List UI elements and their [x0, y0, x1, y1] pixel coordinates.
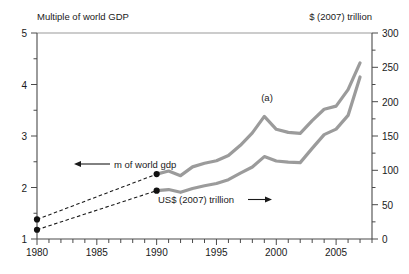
series-label-usd-trillion: US$ (2007) trillion — [158, 194, 272, 205]
right-axis-major-ticks — [372, 33, 378, 239]
x-tick-label-1985: 1985 — [86, 247, 109, 258]
left-tick-label-4: 4 — [21, 80, 27, 91]
left-tick-label-5: 5 — [21, 28, 27, 39]
data-point-marker — [34, 216, 40, 222]
right-tick-label-200: 200 — [382, 97, 399, 108]
right-axis-title: $ (2007) trillion — [309, 11, 372, 22]
x-tick-label-2005: 2005 — [325, 247, 348, 258]
right-tick-label-150: 150 — [382, 131, 399, 142]
series-label-gdp-multiple: m of world gdp — [74, 159, 176, 170]
right-tick-label-50: 50 — [382, 200, 394, 211]
series-path-3 — [37, 191, 157, 230]
series-label-gdp-multiple-text: m of world gdp — [114, 159, 176, 170]
data-point-marker — [154, 171, 160, 177]
series-path-1 — [157, 77, 360, 192]
left-tick-label-2: 2 — [21, 183, 27, 194]
chart-canvas: Multiple of world GDP $ (2007) trillion … — [0, 0, 409, 274]
right-tick-label-100: 100 — [382, 165, 399, 176]
right-tick-label-250: 250 — [382, 62, 399, 73]
x-tick-label-1980: 1980 — [26, 247, 49, 258]
left-axis-major-ticks — [31, 33, 37, 239]
left-axis-title: Multiple of world GDP — [37, 11, 129, 22]
x-axis-ticks — [37, 239, 372, 245]
right-tick-label-300: 300 — [382, 28, 399, 39]
chart-figure: Multiple of world GDP $ (2007) trillion … — [0, 0, 409, 274]
right-tick-label-0: 0 — [382, 234, 388, 245]
series-label-usd-trillion-text: US$ (2007) trillion — [158, 194, 234, 205]
footnote-marker-a: (a) — [261, 92, 273, 103]
data-point-marker — [34, 227, 40, 233]
series-path-2 — [37, 174, 157, 219]
series-layer — [34, 63, 360, 233]
x-tick-label-2000: 2000 — [265, 247, 288, 258]
x-tick-label-1995: 1995 — [205, 247, 228, 258]
series-path-0 — [157, 63, 360, 176]
x-tick-label-1990: 1990 — [145, 247, 168, 258]
data-point-marker — [154, 188, 160, 194]
left-tick-label-3: 3 — [21, 131, 27, 142]
left-tick-label-1: 1 — [21, 234, 27, 245]
